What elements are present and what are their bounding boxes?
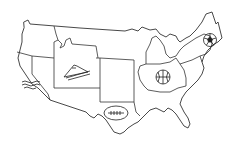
us-map: United States sports map (0, 0, 240, 152)
michigan-border (146, 36, 180, 64)
ohio-region-border (138, 58, 186, 92)
us-outline (18, 12, 222, 134)
midwest-border (100, 58, 134, 78)
texas-border (100, 78, 134, 102)
california-nevada-border (32, 56, 50, 100)
texas-east-border (134, 102, 140, 116)
football-icon (104, 106, 128, 120)
pennsylvania-border (200, 56, 202, 62)
basketball-icon (156, 70, 170, 84)
northwest-border (17, 38, 98, 58)
tent-icon (64, 65, 90, 80)
montana-border (54, 26, 58, 40)
soccer-ball-icon (204, 34, 217, 47)
colorado-border (54, 58, 100, 88)
